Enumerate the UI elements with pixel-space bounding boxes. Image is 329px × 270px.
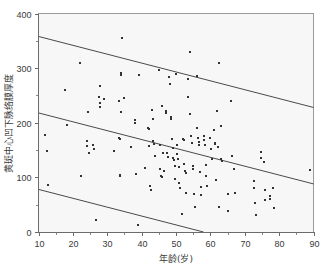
data-point [221, 160, 223, 162]
data-point [178, 166, 180, 168]
data-point [167, 156, 169, 158]
data-point [203, 135, 205, 137]
data-point [213, 129, 215, 131]
data-point [253, 187, 255, 189]
data-point [86, 145, 88, 147]
data-point [166, 152, 168, 154]
data-point [197, 137, 199, 139]
data-point [192, 165, 194, 167]
data-point [253, 180, 255, 182]
data-point [178, 182, 180, 184]
data-point [95, 219, 97, 221]
data-point [220, 125, 222, 127]
data-point [231, 155, 233, 157]
data-point [135, 173, 137, 175]
x-tick-label: 50 [171, 239, 181, 249]
y-axis-title: 黄斑中心凹下脉络膜厚度 [3, 74, 14, 173]
data-point [168, 76, 170, 78]
data-point [64, 89, 66, 91]
data-point [86, 140, 88, 142]
data-point [209, 137, 211, 139]
data-point [260, 157, 262, 159]
data-point [205, 175, 207, 177]
x-axis-tick-labels: 102030405060708090 [34, 239, 319, 249]
data-point [93, 148, 95, 150]
data-point [203, 139, 205, 141]
data-point [152, 140, 154, 142]
data-point [152, 118, 154, 120]
data-point [170, 118, 172, 120]
data-point [98, 96, 100, 98]
data-point [264, 199, 266, 201]
y-tick-label: 200 [16, 119, 31, 129]
x-axis-ticks [40, 232, 315, 236]
data-point [150, 189, 152, 191]
data-point [161, 176, 163, 178]
data-point [79, 62, 81, 64]
data-point [183, 139, 185, 141]
x-tick-label: 30 [102, 239, 112, 249]
data-point [47, 184, 49, 186]
data-point [260, 151, 262, 153]
data-point [185, 172, 187, 174]
data-point [181, 213, 183, 215]
data-point [218, 62, 220, 64]
chart-canvas: 102030405060708090 0100200300400 年龄(岁) 黄… [0, 0, 329, 270]
data-point [200, 186, 202, 188]
data-point [220, 158, 222, 160]
data-point [227, 193, 229, 195]
y-tick-label: 0 [26, 228, 31, 238]
data-point [165, 112, 167, 114]
data-point [177, 158, 179, 160]
data-point [269, 195, 271, 197]
data-point [172, 147, 174, 149]
data-point [46, 150, 48, 152]
data-point [44, 134, 46, 136]
data-point [123, 97, 125, 99]
scatter-chart-figure: 102030405060708090 0100200300400 年龄(岁) 黄… [0, 0, 329, 270]
data-point [198, 141, 200, 143]
y-axis-ticks [35, 15, 39, 233]
x-tick-label: 70 [240, 239, 250, 249]
x-tick-label: 40 [137, 239, 147, 249]
data-point [92, 144, 94, 146]
data-point [99, 102, 101, 104]
data-point [138, 74, 140, 76]
x-tick-label: 60 [205, 239, 215, 249]
data-point [183, 163, 185, 165]
data-point [113, 150, 115, 152]
data-point [161, 105, 163, 107]
data-point [272, 187, 274, 189]
data-point [137, 224, 139, 226]
data-point [187, 78, 189, 80]
data-point [192, 168, 194, 170]
data-point [120, 74, 122, 76]
data-point [215, 179, 217, 181]
data-point [264, 189, 266, 191]
data-point [196, 75, 198, 77]
data-point [162, 152, 164, 154]
data-point [163, 170, 165, 172]
data-point [169, 83, 171, 85]
data-point [175, 73, 177, 75]
data-point [189, 113, 191, 115]
data-point [211, 158, 213, 160]
data-point [179, 187, 181, 189]
data-point [217, 146, 219, 148]
data-point [206, 185, 208, 187]
data-point [159, 144, 161, 146]
data-point [148, 128, 150, 130]
data-point [218, 206, 220, 208]
data-point [216, 110, 218, 112]
data-point [176, 153, 178, 155]
data-point [191, 142, 193, 144]
data-point [200, 194, 202, 196]
data-point [144, 167, 146, 169]
data-point [176, 144, 178, 146]
x-tick-label: 10 [34, 239, 44, 249]
data-point [174, 165, 176, 167]
data-point [210, 148, 212, 150]
data-point [171, 138, 173, 140]
data-point [255, 214, 257, 216]
data-point [233, 168, 235, 170]
